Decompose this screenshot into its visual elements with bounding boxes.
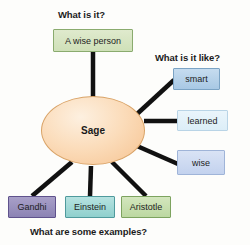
node-example-gandhi[interactable]: Gandhi: [8, 196, 56, 218]
node-center-concept[interactable]: Sage: [41, 96, 145, 165]
node-example-gandhi-label: Gandhi: [17, 202, 46, 212]
node-attribute-smart[interactable]: smart: [173, 68, 220, 90]
edge-center-to-wise: [137, 146, 178, 164]
node-attribute-wise-label: wise: [192, 158, 210, 168]
question-label-what-is-it: What is it?: [58, 9, 105, 20]
node-definition-label: A wise person: [65, 36, 121, 46]
concept-map-diagram: What is it? What is it like? What are so…: [0, 0, 250, 245]
node-center-label: Sage: [81, 125, 105, 136]
question-label-examples: What are some examples?: [30, 226, 147, 237]
edge-center-to-aristotle: [112, 162, 146, 196]
node-example-aristotle-label: Aristotle: [130, 202, 163, 212]
edge-center-to-gandhi: [32, 162, 72, 196]
node-attribute-learned[interactable]: learned: [177, 110, 228, 131]
node-attribute-wise[interactable]: wise: [177, 150, 225, 175]
question-label-what-is-it-like: What is it like?: [155, 52, 220, 63]
edge-center-to-einstein: [90, 166, 91, 196]
node-definition[interactable]: A wise person: [53, 29, 133, 52]
node-attribute-smart-label: smart: [185, 74, 208, 84]
node-example-einstein-label: Einstein: [74, 202, 106, 212]
node-example-einstein[interactable]: Einstein: [65, 196, 115, 218]
edge-center-to-smart: [137, 80, 174, 114]
node-example-aristotle[interactable]: Aristotle: [121, 196, 171, 218]
node-attribute-learned-label: learned: [187, 116, 217, 126]
